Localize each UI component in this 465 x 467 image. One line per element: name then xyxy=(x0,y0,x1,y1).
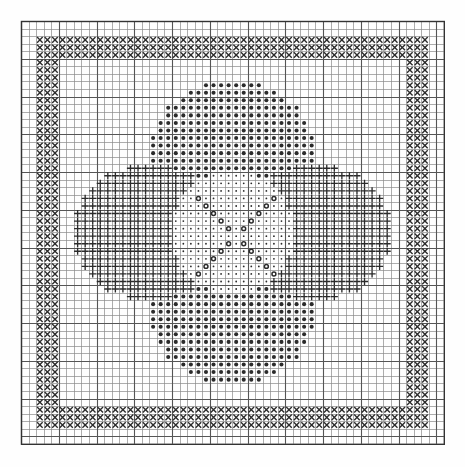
cross-stitch-chart: Cross Stitch Pattern Chart xyxy=(0,0,465,467)
pattern-grid-canvas xyxy=(0,0,465,467)
